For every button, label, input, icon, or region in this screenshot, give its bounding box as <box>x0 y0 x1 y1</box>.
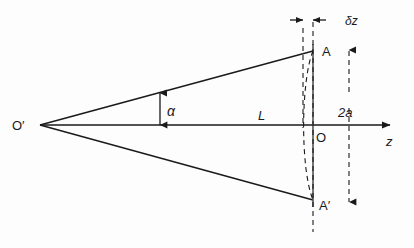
label-focus-point: O <box>316 130 326 145</box>
label-source-point: O′ <box>12 118 25 133</box>
label-axial-distance: L <box>258 108 265 123</box>
label-aperture-height: 2a <box>337 105 352 120</box>
label-half-angle: α <box>167 103 176 119</box>
label-axis-name: z <box>385 134 393 149</box>
optics-ray-diagram-figure: O′ O A A′ α L z 2a δz <box>0 0 414 248</box>
label-upper-edge-point: A <box>322 44 331 59</box>
figure-background <box>0 0 414 248</box>
figure-canvas: O′ O A A′ α L z 2a δz <box>0 0 414 248</box>
label-depth-shift: δz <box>345 14 358 28</box>
label-lower-edge-point: A′ <box>319 198 331 213</box>
